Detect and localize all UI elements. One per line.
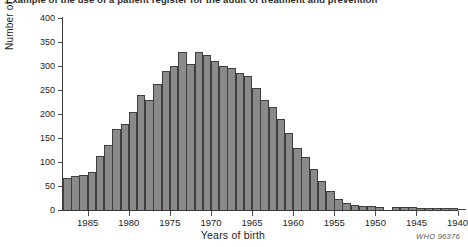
x-axis-tick-label: 1965 [241,218,262,228]
y-axis-tick [58,114,63,115]
x-axis-tick-label: 1945 [406,218,427,228]
histogram-bar [260,100,269,210]
histogram-bar [367,206,376,210]
y-axis-tick [58,90,63,91]
x-axis-tick [375,211,376,216]
y-axis-tick-label: 200 [40,110,55,119]
who-credit: WHO 96376 [416,232,460,241]
y-axis-tick [58,162,63,163]
y-axis-tick-label: 150 [40,134,55,143]
y-axis-tick [58,138,63,139]
y-axis-tick-label: 350 [40,38,55,47]
x-axis-tick-label: 1975 [159,218,180,228]
y-axis-tick [58,42,63,43]
y-axis-tick-label: 250 [40,86,55,95]
x-axis-tick-label: 1940 [447,218,468,228]
x-axis-tick-label: 1985 [77,218,98,228]
x-axis-tick [170,211,171,216]
x-axis-tick [334,211,335,216]
x-axis-tick [129,211,130,216]
y-axis-tick-label: 100 [40,158,55,167]
histogram-bar [375,207,384,210]
y-axis-tick-label: 300 [40,62,55,71]
x-axis-tick-label: 1950 [365,218,386,228]
x-axis-tick [211,211,212,216]
plot-area: 050100150200250300350400 [63,18,457,210]
histogram-bar [458,209,467,210]
y-axis-tick-label: 50 [45,182,55,191]
histogram-bar [162,71,171,210]
x-axis-tick [293,211,294,216]
x-axis-tick [252,211,253,216]
x-axis-title: Years of birth [0,229,466,241]
y-axis-tick-label: 400 [40,14,55,23]
x-axis-tick [88,211,89,216]
x-axis-tick-label: 1980 [118,218,139,228]
x-axis-tick-label: 1955 [324,218,345,228]
x-axis-tick-label: 1970 [200,218,221,228]
x-axis-tick-label: 1960 [283,218,304,228]
y-axis-tick [58,66,63,67]
x-axis-tick [458,211,459,216]
y-axis-title: Number of patients [4,0,15,50]
y-axis-tick [58,18,63,19]
x-axis-tick [416,211,417,216]
